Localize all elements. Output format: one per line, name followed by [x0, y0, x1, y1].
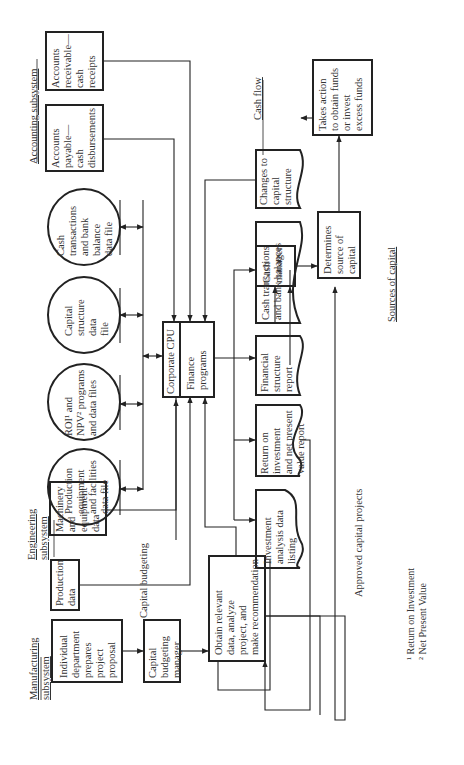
production-equipment-file-label: Productionequipmentand facilitiesdata fi… — [63, 460, 111, 514]
takes-action-label: Takes actionto obtain fundsor investexce… — [317, 68, 365, 131]
cash-balances-label: Cash transactionsand bank balances — [260, 243, 284, 320]
capital-budgeting-label: Capital budgeting — [138, 543, 150, 618]
corporate-cpu-label: Corporate CPU — [165, 329, 177, 394]
cash-flow-heading: Cash flow — [252, 77, 264, 120]
roi-npv-file-label: ROI¹ andNPV² programsand data files — [63, 370, 99, 436]
manufacturing-subsystem-heading: Manufacturingsubsystem — [28, 638, 52, 700]
capital-structure-file-label: Capitalstructuredatafile — [63, 299, 111, 336]
approved-capital-projects-label: Approved capital projects — [353, 489, 365, 597]
capital-budgeting-manager-label: Capitalbudgetingmanager — [147, 636, 183, 678]
engineering-subsystem-heading: Engineeringsubsystem — [26, 509, 50, 560]
roi-npv-report-label: Return oninvestmentand net presentvalue … — [259, 410, 307, 474]
sources-of-capital-heading: Sources of capital — [386, 247, 398, 322]
obtain-data-label: Obtain relevantdata, analyzeproject, and… — [213, 559, 261, 655]
investment-listing-label: Investmentanalysis datalisting — [262, 510, 298, 564]
individual-department-label: Individualdepartmentpreparesprojectpropo… — [58, 631, 118, 678]
determines-source-label: Determinessource ofcapital — [322, 226, 358, 274]
accounting-subsystem-heading: Accounting subsystem — [28, 69, 40, 164]
cash-transactions-file-label: Cashtransactionsand bankbalancedata file — [55, 206, 115, 256]
changes-capital-label: Changes tocapitalstructure — [258, 158, 294, 205]
finance-programs-label: Financeprograms — [185, 350, 209, 390]
financial-structure-label: Financialstructurereport — [259, 353, 295, 392]
accounts-receivable-label: Accountsreceivable—cashreceipts — [50, 34, 98, 88]
production-data-label: Productiondata — [54, 560, 78, 606]
accounts-payable-label: Accountspayable—cashdisbursements — [50, 108, 98, 168]
footnotes: ¹ Return on Investment² Net Present Valu… — [405, 568, 429, 660]
